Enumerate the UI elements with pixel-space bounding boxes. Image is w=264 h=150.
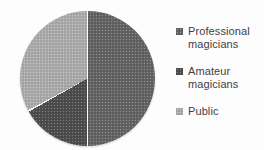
legend-label: Public <box>188 105 256 118</box>
legend-label: Professional magicians <box>188 25 256 51</box>
legend-item: Professional magicians <box>176 25 256 51</box>
legend-item: Amateur magicians <box>176 65 256 91</box>
legend-swatch-icon <box>176 108 183 115</box>
chart-canvas: Professional magiciansAmateur magiciansP… <box>0 0 264 150</box>
legend-swatch-icon <box>176 68 183 75</box>
chart-legend: Professional magiciansAmateur magiciansP… <box>176 25 256 118</box>
legend-label: Amateur magicians <box>188 65 256 91</box>
pie-chart <box>20 11 155 146</box>
legend-item: Public <box>176 105 256 118</box>
legend-swatch-icon <box>176 28 183 35</box>
